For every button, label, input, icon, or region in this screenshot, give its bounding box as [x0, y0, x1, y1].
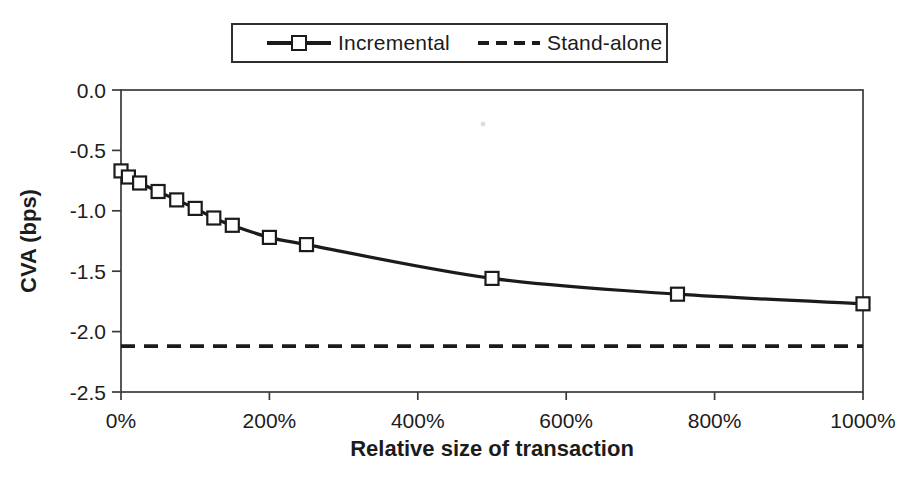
y-tick-label: -2.5 [70, 381, 106, 404]
y-tick-label: -1.0 [70, 199, 106, 222]
scan-speck-artifact [481, 122, 486, 127]
x-axis-title: Relative size of transaction [350, 436, 634, 461]
data-point-marker [170, 193, 183, 206]
y-tick-label: -0.5 [70, 139, 106, 162]
data-point-marker [152, 185, 165, 198]
y-tick-label: -2.0 [70, 320, 106, 343]
x-tick-label: 400% [391, 409, 445, 432]
data-point-marker [300, 238, 313, 251]
x-tick-label: 200% [243, 409, 297, 432]
x-axis: 0%200%400%600%800%1000% [106, 392, 896, 432]
plot-area: 0.0-0.5-1.0-1.5-2.0-2.50%200%400%600%800… [0, 0, 917, 483]
x-tick-label: 800% [688, 409, 742, 432]
x-tick-label: 0% [106, 409, 136, 432]
data-point-marker [486, 272, 499, 285]
y-tick-label: 0.0 [77, 79, 106, 102]
data-point-marker [189, 202, 202, 215]
y-tick-label: -1.5 [70, 260, 106, 283]
data-point-marker [263, 231, 276, 244]
y-axis-title: CVA (bps) [16, 189, 41, 293]
x-tick-label: 1000% [830, 409, 895, 432]
y-axis: 0.0-0.5-1.0-1.5-2.0-2.5 [70, 79, 121, 404]
data-point-marker [133, 177, 146, 190]
data-point-marker [671, 288, 684, 301]
data-point-marker [226, 219, 239, 232]
data-point-marker [207, 212, 220, 225]
incremental-series-markers [115, 164, 870, 310]
cva-chart-figure: Incremental Stand-alone 0.0-0.5-1.0-1.5-… [0, 0, 917, 483]
x-tick-label: 600% [539, 409, 593, 432]
data-point-marker [857, 297, 870, 310]
